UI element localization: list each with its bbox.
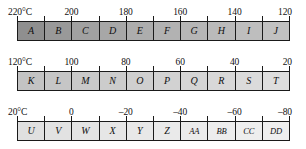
scale-cell[interactable]: J	[263, 22, 289, 40]
scale-cell[interactable]: N	[100, 72, 127, 90]
axis-label: 120°C	[8, 57, 32, 67]
scale-cell[interactable]: E	[127, 22, 154, 40]
axis-label: 100	[64, 57, 78, 67]
axis-label: 120	[278, 7, 292, 17]
axis-1: 120°C10080604020	[17, 54, 290, 71]
axis-label: 0	[69, 107, 74, 117]
scale-cell[interactable]: A	[18, 22, 45, 40]
axis-label: 20°C	[8, 107, 27, 117]
scale-cell[interactable]: BB	[208, 122, 235, 140]
axis-2: 20°C0–20–40–60–80	[17, 104, 290, 121]
scale-row-1: 120°C10080604020KLMNOPQRST	[0, 54, 306, 91]
axis-label: –80	[278, 107, 292, 117]
scale-cell-label: N	[109, 76, 116, 86]
scale-cell-label: S	[246, 76, 251, 86]
scale-bar-1: KLMNOPQRST	[17, 71, 290, 91]
scale-cell[interactable]: S	[236, 72, 263, 90]
scale-cell[interactable]: R	[208, 72, 235, 90]
scale-cell-label: U	[27, 126, 34, 136]
scale-cell[interactable]: C	[72, 22, 99, 40]
scale-cell-label: G	[191, 26, 198, 36]
scale-cell[interactable]: AA	[181, 122, 208, 140]
scale-cell[interactable]: I	[236, 22, 263, 40]
scale-cell[interactable]: H	[208, 22, 235, 40]
scale-cell-label: DD	[270, 127, 282, 136]
axis-label: 220°C	[8, 7, 32, 17]
axis-label: 180	[119, 7, 133, 17]
scale-cell[interactable]: CC	[236, 122, 263, 140]
scale-bar-2: UVWXYZAABBCCDD	[17, 121, 290, 141]
axis-label: 160	[173, 7, 187, 17]
scale-cell[interactable]: Z	[154, 122, 181, 140]
scale-cell[interactable]: O	[127, 72, 154, 90]
scale-cell[interactable]: T	[263, 72, 289, 90]
scale-cell[interactable]: Q	[181, 72, 208, 90]
scale-cell[interactable]: V	[45, 122, 72, 140]
scale-cell-label: M	[81, 76, 90, 86]
scale-cell-label: T	[273, 76, 279, 86]
scale-cell[interactable]: P	[154, 72, 181, 90]
axis-label: –60	[228, 107, 242, 117]
axis-label: 200	[64, 7, 78, 17]
scale-cell[interactable]: L	[45, 72, 72, 90]
axis-0: 220°C200180160140120	[17, 4, 290, 21]
axis-label: 20	[283, 57, 292, 67]
scale-cell-label: X	[110, 126, 116, 136]
scale-cell-label: AA	[189, 127, 199, 136]
axis-label: –20	[119, 107, 133, 117]
scale-cell-label: C	[82, 26, 89, 36]
axis-label: –40	[173, 107, 187, 117]
scale-cell[interactable]: G	[181, 22, 208, 40]
scale-cell-label: E	[137, 26, 143, 36]
scale-cell-label: V	[55, 126, 61, 136]
scale-cell-label: K	[28, 76, 35, 86]
scale-cell-label: J	[274, 26, 279, 36]
scale-cell-label: CC	[243, 127, 254, 136]
axis-label: 140	[228, 7, 242, 17]
scale-cell-label: L	[55, 76, 61, 86]
scale-cell-label: Q	[191, 76, 198, 86]
scale-cell[interactable]: W	[72, 122, 99, 140]
scale-row-2: 20°C0–20–40–60–80UVWXYZAABBCCDD	[0, 104, 306, 141]
scale-cell[interactable]: Y	[127, 122, 154, 140]
scale-cell[interactable]: DD	[263, 122, 289, 140]
scale-cell-label: BB	[217, 127, 227, 136]
axis-label: 80	[121, 57, 130, 67]
axis-label: 40	[230, 57, 239, 67]
scale-cell-label: R	[218, 76, 224, 86]
scale-cell-label: A	[28, 26, 34, 36]
scale-cell-label: I	[247, 26, 251, 36]
scale-cell[interactable]: X	[100, 122, 127, 140]
scale-cell[interactable]: D	[100, 22, 127, 40]
scale-cell-label: D	[109, 26, 116, 36]
scale-cell-label: B	[55, 26, 61, 36]
scale-cell-label: O	[136, 76, 143, 86]
scale-cell-label: F	[164, 26, 170, 36]
scale-cell[interactable]: K	[18, 72, 45, 90]
scale-cell-label: H	[218, 26, 225, 36]
scale-cell-label: Z	[164, 126, 170, 136]
scale-cell-label: P	[164, 76, 170, 86]
scale-cell-label: Y	[137, 126, 143, 136]
scale-row-0: 220°C200180160140120ABCDEFGHIJ	[0, 4, 306, 41]
scale-cell[interactable]: B	[45, 22, 72, 40]
axis-label: 60	[176, 57, 185, 67]
scale-cell[interactable]: F	[154, 22, 181, 40]
scale-cell-label: W	[81, 126, 90, 136]
scale-bar-0: ABCDEFGHIJ	[17, 21, 290, 41]
scale-cell[interactable]: U	[18, 122, 45, 140]
scale-cell[interactable]: M	[72, 72, 99, 90]
